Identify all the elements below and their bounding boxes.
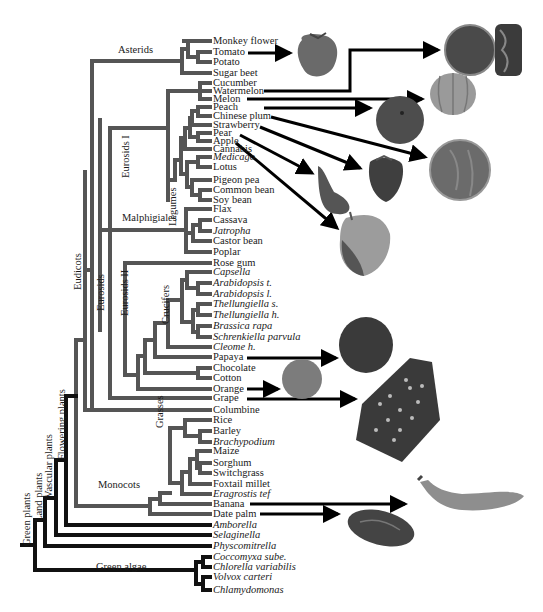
leaf-label: Brassica rapa — [213, 320, 272, 331]
leaf-label: Switchgrass — [213, 467, 264, 478]
papaya-image — [339, 317, 393, 373]
clade-label-asterids: Asterids — [118, 44, 153, 55]
clade-label-green-algae: Green algae — [96, 561, 146, 572]
clade-label-grasses: Grasses — [154, 395, 165, 428]
orange-image — [282, 359, 322, 399]
peach-image — [376, 96, 424, 144]
apple-image — [340, 212, 390, 276]
pear-image — [318, 166, 350, 214]
leaf-label: Grape — [213, 392, 239, 403]
leaf-label: Selaginella — [213, 529, 260, 540]
melon-image — [430, 73, 476, 115]
leaf-label: Arabidopsis t. — [213, 277, 272, 288]
leaf-label: Potato — [213, 56, 240, 67]
leaf-label: Flax — [213, 203, 232, 214]
leaf-label: Castor bean — [213, 235, 263, 246]
strawberry-image — [369, 156, 403, 202]
leaf-label: Chlamydomonas — [213, 584, 284, 595]
leaf-label: Poplar — [213, 246, 240, 257]
leaf-label: Monkey flower — [213, 35, 278, 46]
clade-label-eurosids-1: Eurosids I — [120, 135, 131, 178]
leaf-label: Barley — [213, 425, 241, 436]
leaf-label: Cassava — [213, 214, 247, 225]
clade-label-flowering-plants: Flowering plants — [56, 389, 67, 460]
leaf-label: Papaya — [213, 351, 243, 362]
date-image — [344, 503, 418, 552]
leaf-label: Thellungiella h. — [213, 309, 280, 320]
chinese-plum-image — [430, 140, 490, 200]
leaf-label: Cotton — [213, 372, 242, 383]
leaf-label: Maize — [213, 445, 239, 456]
clade-label-vascular-plants: Vascular plants — [43, 434, 54, 498]
clade-label-crucifers: Crucifers — [160, 285, 171, 324]
leaf-label: Lotus — [213, 161, 237, 172]
clade-label-eurosids-2: Eurosids II — [119, 270, 130, 316]
leaf-label: Physcomitrella — [213, 540, 276, 551]
clade-label-legumes: Legumes — [167, 188, 178, 227]
leaf-label: Date palm — [213, 508, 256, 519]
leaf-label: Capsella — [213, 266, 250, 277]
clade-label-monocots: Monocots — [98, 479, 140, 490]
banana-image — [418, 476, 524, 510]
clade-label-eurosids: Eurosids — [95, 274, 106, 311]
watermelon-image — [445, 24, 522, 76]
grape-image — [356, 358, 440, 462]
leaf-label: Volvox carteri — [213, 571, 272, 582]
tomato-image — [298, 33, 338, 76]
leaf-label: Thellungiella s. — [213, 298, 278, 309]
clade-label-eudicots: Eudicots — [72, 253, 83, 290]
leaf-label: Rice — [213, 414, 232, 425]
clade-label-land-plants: Land plants — [33, 473, 44, 522]
clade-label-green-plants: Green plants — [21, 493, 32, 546]
